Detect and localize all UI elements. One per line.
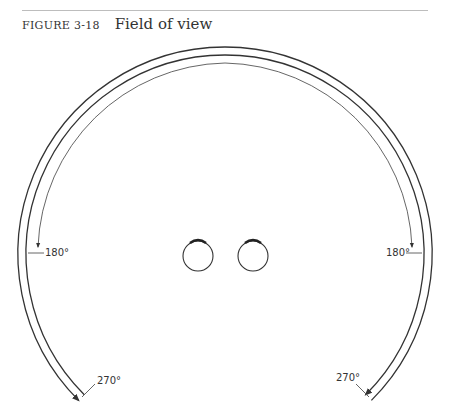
middle-arc-270-left: [26, 55, 225, 395]
label-270-left: 270°: [97, 375, 121, 386]
tick-270-left: [82, 384, 95, 397]
label-180-left: 180°: [45, 247, 69, 258]
label-180-right: 180°: [386, 247, 410, 258]
right-eye: [238, 240, 268, 271]
field-of-view-diagram: 180° 180° 270° 270°: [0, 0, 449, 414]
inner-arc-180-right: [225, 63, 412, 247]
inner-arc-180-left: [38, 63, 225, 247]
tick-270-right: [356, 384, 369, 397]
label-270-right: 270°: [336, 372, 360, 383]
middle-arc-270-right: [225, 55, 424, 395]
left-eye: [183, 240, 213, 271]
